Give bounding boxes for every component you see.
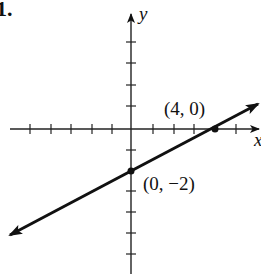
- point-y-intercept: [128, 168, 135, 175]
- problem-number: 1.: [0, 0, 13, 20]
- y-axis-label: y: [139, 4, 147, 23]
- point-label-x-intercept: (4, 0): [164, 99, 205, 118]
- coordinate-plane: [0, 0, 261, 274]
- x-axis: [10, 124, 259, 134]
- graph-line-lower: [10, 171, 131, 235]
- point-label-y-intercept: (0, −2): [143, 174, 195, 193]
- x-axis-label: x: [254, 130, 261, 149]
- point-x-intercept: [212, 126, 219, 133]
- y-axis: [126, 14, 136, 274]
